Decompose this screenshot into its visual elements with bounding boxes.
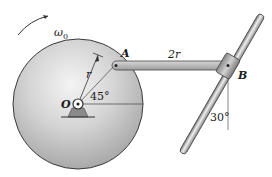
angle-30-label: 30° (210, 111, 230, 124)
link-length-label: 2r (167, 48, 181, 61)
point-a-label: A (120, 47, 130, 60)
point-o-label: O (61, 98, 71, 111)
radius-label: r (86, 68, 92, 81)
inclined-rod (179, 13, 265, 155)
omega-label: ω0 (54, 26, 68, 41)
angular-velocity-arrow (18, 15, 48, 35)
angle-45-label: 45° (90, 90, 110, 103)
point-b-label: B (237, 69, 247, 82)
mechanism-diagram: ω0 r 45° O A 2r (0, 0, 272, 177)
link-ab (112, 61, 231, 70)
